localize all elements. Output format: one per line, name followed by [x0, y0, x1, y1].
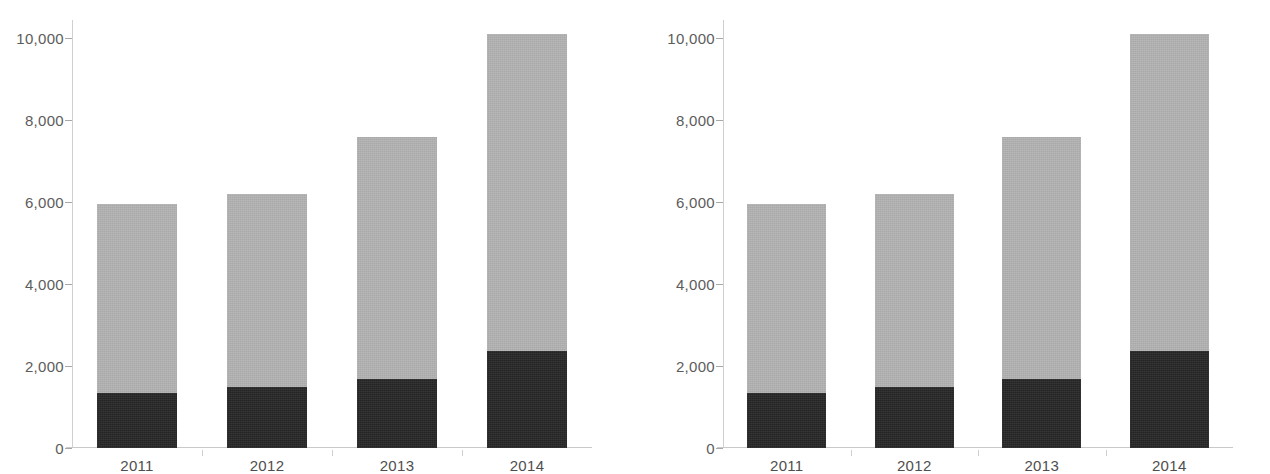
x-axis-label-2014: 2014 [462, 457, 592, 474]
y-axis-tick-mark [65, 448, 72, 449]
y-axis-tick-label: 2,000 [676, 358, 715, 375]
y-axis-tick-label: 8,000 [676, 112, 715, 129]
y-axis-tick-mark [716, 202, 723, 203]
y-axis-tick-label: 2,000 [25, 358, 64, 375]
x-axis-label-2013: 2013 [978, 457, 1106, 474]
y-axis-tick-label: 10,000 [667, 30, 715, 47]
x-axis-separator [332, 450, 333, 456]
x-axis-label-2014: 2014 [1106, 457, 1234, 474]
bar-segment-lower-segment[interactable] [1002, 379, 1081, 448]
y-axis-tick-label: 6,000 [676, 194, 715, 211]
bar-segment-upper-segment[interactable] [1130, 34, 1209, 350]
y-axis-tick-label: 10,000 [16, 30, 64, 47]
bar-segment-lower-segment[interactable] [97, 393, 178, 448]
bar-segment-upper-segment[interactable] [487, 34, 568, 350]
bar-segment-lower-segment[interactable] [747, 393, 826, 448]
bar-segment-lower-segment[interactable] [487, 351, 568, 448]
chart-page: 02,0004,0006,0008,00010,000 201120122013… [0, 0, 1270, 474]
x-axis-labels: 2011201220132014 [72, 450, 592, 474]
x-axis-separator [1106, 450, 1107, 456]
x-axis-label-2012: 2012 [851, 457, 979, 474]
plot-area-left: 02,0004,0006,0008,00010,000 201120122013… [72, 18, 592, 448]
y-axis-tick-mark [716, 284, 723, 285]
y-axis-tick-label: 6,000 [25, 194, 64, 211]
bar-segment-lower-segment[interactable] [227, 387, 308, 448]
bar-segment-upper-segment[interactable] [1002, 137, 1081, 379]
y-axis-tick-mark [65, 202, 72, 203]
bar-stack[interactable] [97, 204, 178, 448]
bars-layer [723, 18, 1233, 448]
y-axis-tick-mark [65, 366, 72, 367]
x-axis-label-2013: 2013 [332, 457, 462, 474]
bar-stack[interactable] [1002, 137, 1081, 448]
x-axis-label-2011: 2011 [723, 457, 851, 474]
bar-segment-upper-segment[interactable] [97, 204, 178, 392]
y-axis-tick-mark [716, 366, 723, 367]
y-axis-tick-mark [65, 284, 72, 285]
x-axis-label-2011: 2011 [72, 457, 202, 474]
bar-stack[interactable] [747, 204, 826, 448]
x-axis-separator [851, 450, 852, 456]
x-axis-separator [202, 450, 203, 456]
y-axis-tick-label: 0 [706, 440, 715, 457]
stacked-bar-chart-right: 02,0004,0006,0008,00010,000 201120122013… [635, 0, 1270, 474]
bar-stack[interactable] [1130, 34, 1209, 448]
x-axis-separator [462, 450, 463, 456]
y-axis-tick-mark [716, 38, 723, 39]
y-axis-tick-label: 4,000 [25, 276, 64, 293]
bar-segment-lower-segment[interactable] [357, 379, 438, 448]
y-axis-tick-mark [65, 120, 72, 121]
bar-segment-upper-segment[interactable] [875, 194, 954, 386]
y-axis-tick-label: 8,000 [25, 112, 64, 129]
y-axis-tick-label: 4,000 [676, 276, 715, 293]
stacked-bar-chart-left: 02,0004,0006,0008,00010,000 201120122013… [0, 0, 635, 474]
bar-segment-lower-segment[interactable] [1130, 351, 1209, 448]
plot-area-right: 02,0004,0006,0008,00010,000 201120122013… [723, 18, 1233, 448]
y-axis-tick-mark [716, 448, 723, 449]
bar-stack[interactable] [875, 194, 954, 448]
y-axis-tick-label: 0 [55, 440, 64, 457]
x-axis-label-2012: 2012 [202, 457, 332, 474]
bar-segment-upper-segment[interactable] [357, 137, 438, 379]
bar-segment-lower-segment[interactable] [875, 387, 954, 448]
x-axis-labels: 2011201220132014 [723, 450, 1233, 474]
bar-stack[interactable] [487, 34, 568, 448]
bar-segment-upper-segment[interactable] [747, 204, 826, 392]
bar-stack[interactable] [227, 194, 308, 448]
y-axis-tick-mark [716, 120, 723, 121]
bars-layer [72, 18, 592, 448]
bar-segment-upper-segment[interactable] [227, 194, 308, 386]
y-axis-tick-mark [65, 38, 72, 39]
bar-stack[interactable] [357, 137, 438, 448]
x-axis-separator [978, 450, 979, 456]
